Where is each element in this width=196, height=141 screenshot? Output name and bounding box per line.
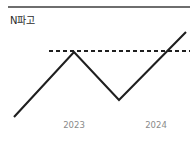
chart-card: N파고 2023 2024 — [0, 0, 196, 141]
x-axis-tick-label-2024: 2024 — [145, 120, 167, 130]
x-axis-tick-label-2023: 2023 — [63, 120, 85, 130]
series-line-npago — [14, 32, 186, 117]
